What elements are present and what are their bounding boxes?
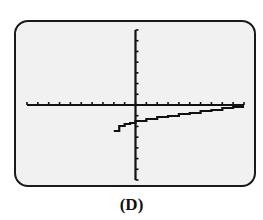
curve	[114, 107, 244, 131]
figure-caption: (D)	[0, 195, 263, 215]
graph-plot	[0, 0, 263, 220]
axes	[27, 30, 244, 180]
